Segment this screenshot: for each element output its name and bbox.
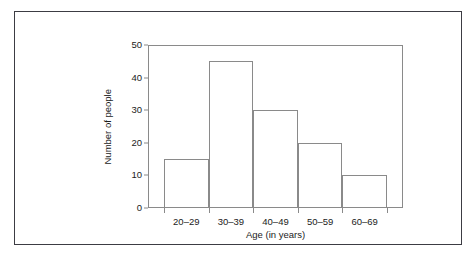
y-tick-mark — [144, 142, 148, 143]
x-tick-mark — [164, 208, 165, 213]
x-tick-mark — [209, 208, 210, 213]
bar-40–49 — [253, 110, 298, 208]
bar-60–69 — [342, 175, 387, 208]
figure-root: Number of people 01020304050 20–2930–394… — [0, 0, 476, 260]
x-axis-title: Age (in years) — [148, 230, 403, 240]
y-tick-label: 10 — [131, 171, 142, 181]
y-axis-title-label: Number of people — [103, 89, 113, 165]
x-tick-mark — [387, 208, 388, 213]
bar-50–59 — [298, 143, 343, 208]
y-tick-label: 40 — [131, 73, 142, 83]
figure-border: Number of people 01020304050 20–2930–394… — [14, 11, 462, 245]
x-tick-mark — [342, 208, 343, 213]
y-tick-label: 0 — [137, 203, 142, 213]
y-tick-label: 30 — [131, 105, 142, 115]
x-tick-mark — [298, 208, 299, 213]
y-tick-mark — [144, 110, 148, 111]
x-tick-label: 50–59 — [307, 217, 333, 227]
bar-20–29 — [164, 159, 209, 208]
plot-area: 01020304050 20–2930–3940–4950–5960–69 — [148, 45, 403, 208]
y-axis-title: Number of people — [101, 45, 115, 208]
x-tick-label: 60–69 — [351, 217, 377, 227]
y-tick-mark — [144, 45, 148, 46]
y-tick-label: 20 — [131, 138, 142, 148]
bar-30–39 — [209, 61, 254, 208]
y-tick-mark — [144, 77, 148, 78]
x-tick-mark — [253, 208, 254, 213]
y-tick-mark — [144, 208, 148, 209]
y-tick-label: 50 — [131, 40, 142, 50]
y-tick-mark — [144, 175, 148, 176]
x-tick-label: 20–29 — [173, 217, 199, 227]
x-tick-label: 40–49 — [262, 217, 288, 227]
x-axis-title-label: Age (in years) — [246, 229, 305, 240]
x-tick-label: 30–39 — [218, 217, 244, 227]
